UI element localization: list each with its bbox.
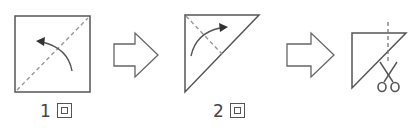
step1-label: 1	[40, 101, 72, 121]
step3-folded-triangle	[352, 22, 406, 92]
step1-square	[15, 16, 90, 92]
step2-label: 2	[213, 101, 245, 121]
times-glyph-icon	[230, 103, 245, 118]
next-step-arrow-icon	[287, 33, 334, 77]
times-glyph-icon	[57, 103, 72, 118]
origami-cut-diagram: 1 2	[0, 0, 412, 132]
next-step-arrow-icon	[114, 33, 158, 77]
step2-count: 2	[213, 101, 226, 121]
step1-count: 1	[40, 101, 53, 121]
step2-triangle	[185, 15, 259, 92]
scissors-icon	[378, 62, 399, 92]
